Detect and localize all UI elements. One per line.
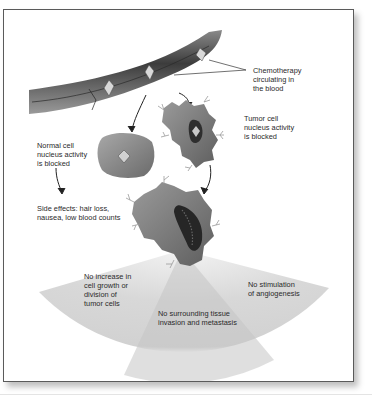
- blood-vessel: [29, 30, 246, 114]
- label-no-growth: No increase in cell growth or division o…: [84, 272, 131, 308]
- diagram-frame: Chemotherapy circulating in the blood Tu…: [3, 9, 354, 382]
- label-chemo-in-blood: Chemotherapy circulating in the blood: [253, 66, 301, 93]
- label-normal-cell: Normal cell nucleus activity is blocked: [37, 141, 87, 168]
- label-no-angiogenesis: No stimulation of angiogenesis: [248, 280, 300, 298]
- label-tumor-cell: Tumor cell nucleus activity is blocked: [244, 114, 294, 141]
- label-side-effects: Side effects: hair loss, nausea, low blo…: [37, 204, 120, 222]
- tumor-cell-small: [158, 96, 224, 171]
- divider: [0, 394, 372, 395]
- label-no-invasion: No surrounding tissue invasion and metas…: [158, 309, 237, 327]
- normal-cell: [98, 133, 155, 178]
